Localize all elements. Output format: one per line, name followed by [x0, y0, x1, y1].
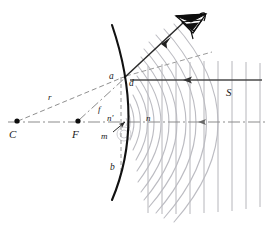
- label-a: a: [109, 71, 114, 81]
- label-F: F: [71, 128, 79, 140]
- point-dot-F: [75, 118, 80, 123]
- label-n-prime: n': [107, 113, 115, 123]
- label-n: n: [146, 113, 151, 123]
- label-d: d: [129, 78, 134, 88]
- figure-background: [0, 0, 272, 227]
- label-b: b: [110, 162, 115, 172]
- label-m: m: [101, 131, 108, 141]
- label-S: S: [226, 86, 232, 98]
- label-C: C: [9, 128, 17, 140]
- point-dot-C: [14, 118, 19, 123]
- optics-figure: C F r f a d n' n m b S: [0, 0, 272, 227]
- label-r: r: [48, 92, 52, 102]
- diagram-canvas: C F r f a d n' n m b S: [0, 0, 272, 227]
